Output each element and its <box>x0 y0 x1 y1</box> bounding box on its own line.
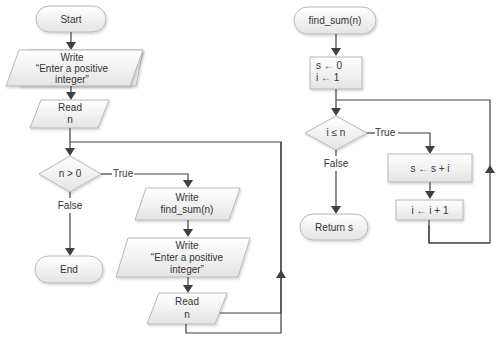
svg-text:i ← i + 1: i ← i + 1 <box>412 205 449 216</box>
arrow-icon <box>425 146 435 154</box>
write-prompt-io: Write “Enter a positive integer” <box>6 50 143 86</box>
svg-text:s ← s + i: s ← s + i <box>410 163 449 174</box>
svg-text:i ← 1: i ← 1 <box>316 72 340 83</box>
decision-n-gt-0: n > 0 <box>39 156 101 192</box>
svg-text:integer”: integer” <box>170 264 204 275</box>
write-find-sum-io: Write find_sum(n) <box>135 188 240 220</box>
arrow-icon <box>331 48 341 56</box>
decision-i-le-n: i ≤ n <box>305 116 367 150</box>
arrow-icon <box>425 191 435 199</box>
find-sum-terminal: find_sum(n) <box>294 7 376 34</box>
svg-text:integer”: integer” <box>55 74 89 85</box>
svg-text:Write: Write <box>60 52 84 63</box>
arrow-icon <box>331 206 341 214</box>
svg-text:n: n <box>184 309 190 320</box>
svg-text:i ≤ n: i ≤ n <box>327 127 346 138</box>
find-sum-label: find_sum(n) <box>309 15 362 26</box>
arrow-up-icon <box>485 165 495 173</box>
arrow-icon <box>65 248 75 256</box>
svg-text:“Enter a positive: “Enter a positive <box>36 63 109 74</box>
end-terminal: End <box>35 256 103 283</box>
svg-text:Write: Write <box>175 192 199 203</box>
start-label: Start <box>60 14 81 25</box>
svg-text:“Enter a positive: “Enter a positive <box>151 252 224 263</box>
svg-text:n > 0: n > 0 <box>59 168 82 179</box>
svg-text:Read: Read <box>175 296 199 307</box>
arrow-icon <box>331 108 341 116</box>
read-n-io: Read n <box>30 100 109 128</box>
sum-process: s ← s + i <box>388 154 472 182</box>
init-process: s ← 0 i ← 1 <box>310 57 362 89</box>
svg-text:s ← 0: s ← 0 <box>316 60 343 71</box>
return-terminal: Return s <box>300 214 368 240</box>
main-loop-back-line <box>70 142 281 313</box>
svg-text:Read: Read <box>58 102 82 113</box>
arrow-icon <box>66 92 76 100</box>
read-n-io-2: Read n <box>147 293 227 324</box>
true-label-func: True <box>375 127 396 138</box>
flowchart-diagram: Start Write “Enter a positive integer” R… <box>0 0 502 341</box>
false-label-func: False <box>324 158 349 169</box>
true-label: True <box>113 168 134 179</box>
false-label: False <box>58 200 83 211</box>
arrow-icon <box>66 42 76 50</box>
arrow-icon <box>183 229 193 237</box>
arrow-icon <box>183 285 193 293</box>
increment-process: i ← i + 1 <box>396 200 463 220</box>
return-label: Return s <box>315 222 353 233</box>
arrow-icon <box>183 180 193 188</box>
start-terminal: Start <box>36 6 106 32</box>
end-label: End <box>60 264 78 275</box>
write-prompt-io-2: Write “Enter a positive integer” <box>116 238 250 277</box>
svg-text:Write: Write <box>175 240 199 251</box>
arrow-icon <box>65 148 75 156</box>
svg-text:n: n <box>67 114 73 125</box>
svg-text:find_sum(n): find_sum(n) <box>161 204 214 215</box>
